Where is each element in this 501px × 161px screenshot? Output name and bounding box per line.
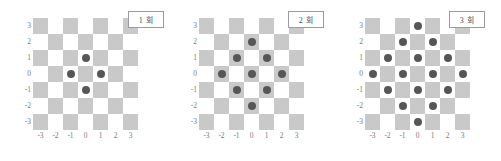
grid-cell [63, 82, 78, 98]
y-tick-label: 2 [351, 34, 363, 50]
grid-cell [259, 66, 274, 82]
data-point-dot [82, 54, 90, 62]
grid-cell [410, 18, 425, 34]
grid-cell [108, 50, 123, 66]
grid-cell [78, 50, 93, 66]
grid-cell [214, 82, 229, 98]
grid-cell [259, 82, 274, 98]
y-tick-label: -1 [19, 82, 31, 98]
grid-cell [244, 34, 259, 50]
grid-cell [425, 82, 440, 98]
grid-cell [440, 66, 455, 82]
grid-cell [455, 34, 470, 50]
data-point-dot [67, 70, 75, 78]
grid-cell [229, 114, 244, 130]
x-axis-tick-labels: -3-2-10123 [365, 132, 470, 144]
grid-cell [214, 66, 229, 82]
grid-cell [395, 82, 410, 98]
x-tick-label: 3 [289, 132, 304, 144]
grid-cell [48, 34, 63, 50]
grid-cell [244, 50, 259, 66]
grid-cell [33, 66, 48, 82]
data-point-dot [399, 70, 407, 78]
grid-cell [48, 66, 63, 82]
data-point-dot [429, 38, 437, 46]
grid-cell [199, 114, 214, 130]
grid-cell [365, 82, 380, 98]
chart-panel-2: 3210-1-2-3-3-2-101232 회 [166, 0, 333, 161]
grid-cell [33, 34, 48, 50]
grid-cell [380, 66, 395, 82]
grid-cell [274, 50, 289, 66]
data-point-dot [414, 22, 422, 30]
x-tick-label: -2 [380, 132, 395, 144]
grid-cell [48, 50, 63, 66]
grid-cell [48, 82, 63, 98]
grid-cell [259, 34, 274, 50]
grid-cell [214, 114, 229, 130]
x-tick-label: 1 [93, 132, 108, 144]
grid-cell [289, 114, 304, 130]
grid-cell [199, 50, 214, 66]
grid-cell [78, 82, 93, 98]
data-point-dot [218, 70, 226, 78]
y-tick-label: 3 [351, 18, 363, 34]
grid-cell [93, 98, 108, 114]
grid-cell [229, 98, 244, 114]
grid-cell [380, 98, 395, 114]
grid-cell [63, 98, 78, 114]
grid-cell [214, 98, 229, 114]
y-tick-label: -3 [185, 114, 197, 130]
y-axis-tick-labels: 3210-1-2-3 [19, 18, 31, 130]
grid-cell [214, 34, 229, 50]
x-tick-label: 3 [455, 132, 470, 144]
grid-cell [395, 114, 410, 130]
grid-cell [63, 50, 78, 66]
grid-cell [380, 50, 395, 66]
grid-cell [108, 66, 123, 82]
data-point-dot [369, 70, 377, 78]
grid-cell [93, 114, 108, 130]
grid-cell [440, 98, 455, 114]
round-label-box-1: 1 회 [128, 11, 164, 28]
grid-cell [93, 34, 108, 50]
plot-area [365, 18, 470, 130]
grid-cell [229, 18, 244, 34]
chart-panel-1: 3210-1-2-3-3-2-101231 회 [0, 0, 167, 161]
grid-cell [365, 50, 380, 66]
plot-area [33, 18, 138, 130]
data-point-dot [233, 86, 241, 94]
grid-cell [244, 82, 259, 98]
grid-cell [455, 82, 470, 98]
grid-cell [199, 82, 214, 98]
grid-cell [199, 98, 214, 114]
data-point-dot [399, 102, 407, 110]
grid-cell [289, 98, 304, 114]
grid-cell [274, 18, 289, 34]
x-tick-label: -2 [214, 132, 229, 144]
round-label-box-2: 2 회 [288, 11, 324, 28]
x-tick-label: 1 [425, 132, 440, 144]
data-point-dot [248, 70, 256, 78]
grid-cell [365, 98, 380, 114]
grid-cell [108, 114, 123, 130]
grid-cell [93, 82, 108, 98]
x-tick-label: 1 [259, 132, 274, 144]
data-point-dot [248, 102, 256, 110]
y-tick-label: 3 [185, 18, 197, 34]
grid-cell [229, 50, 244, 66]
grid-cell [395, 50, 410, 66]
grid-cell [395, 98, 410, 114]
grid-cell [123, 82, 138, 98]
grid-cell [93, 18, 108, 34]
y-tick-label: -3 [351, 114, 363, 130]
grid-cell [48, 114, 63, 130]
grid-cell [259, 98, 274, 114]
data-point-dot [233, 54, 241, 62]
grid-cell [229, 34, 244, 50]
grid-cell [365, 114, 380, 130]
grid-cell [214, 50, 229, 66]
grid-cell [365, 18, 380, 34]
grid-cell [63, 34, 78, 50]
grid-cell [259, 114, 274, 130]
